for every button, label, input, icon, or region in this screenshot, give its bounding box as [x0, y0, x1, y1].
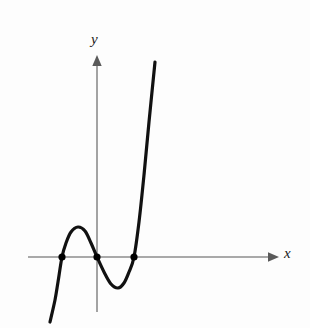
cubic-graph-figure: y x — [0, 0, 310, 328]
graph-canvas: y x — [0, 0, 310, 328]
x-axis-label: x — [283, 245, 291, 261]
root-marker-1 — [58, 253, 65, 260]
root-marker-3 — [130, 253, 137, 260]
y-axis-arrowhead-icon — [92, 55, 101, 66]
root-marker-2 — [93, 253, 100, 260]
y-axis-label: y — [89, 31, 98, 47]
cubic-curve — [50, 62, 155, 322]
x-axis-arrowhead-icon — [268, 252, 279, 262]
